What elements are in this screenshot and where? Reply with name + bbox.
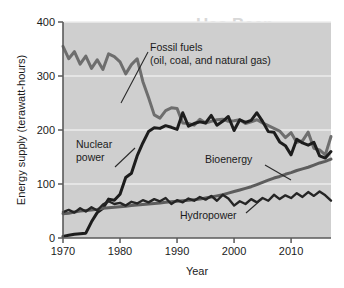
energy-supply-chart-figure: Has Been ion Progression 0100200300400 1…	[0, 0, 344, 288]
nuclear-power-label-line2: power	[76, 151, 105, 163]
y-tick-label-100: 100	[37, 178, 55, 190]
y-tick-label-400: 400	[37, 16, 55, 28]
y-axis-title: Energy supply (terawatt-hours)	[15, 55, 27, 205]
x-tick-label-2010: 2010	[279, 245, 303, 257]
x-tick-label-1970: 1970	[51, 245, 75, 257]
nuclear-power-label-line1: Nuclear	[76, 138, 113, 150]
hydropower-label: Hydropower	[180, 209, 237, 221]
y-tick-label-200: 200	[37, 124, 55, 136]
y-tick-label-300: 300	[37, 70, 55, 82]
fossil-fuels-label-line2: (oil, coal, and natural gas)	[150, 54, 271, 66]
x-tick-label-1980: 1980	[108, 245, 132, 257]
bioenergy-label: Bioenergy	[205, 153, 253, 165]
x-tick-label-2000: 2000	[222, 245, 246, 257]
x-tick-label-1990: 1990	[165, 245, 189, 257]
fossil-fuels-label-line1: Fossil fuels	[150, 41, 203, 53]
x-axis-title: Year	[186, 265, 209, 277]
chart-canvas: Has Been ion Progression 0100200300400 1…	[0, 0, 344, 288]
y-tick-label-0: 0	[49, 232, 55, 244]
